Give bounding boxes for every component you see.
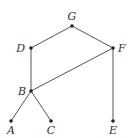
node-g: [70, 24, 74, 28]
node-d: [29, 46, 33, 50]
node-label-c: C: [47, 124, 56, 137]
nodes: [9, 24, 115, 123]
node-label-g: G: [68, 10, 77, 23]
node-label-e: E: [108, 124, 117, 137]
hasse-diagram: GDFBACE: [0, 0, 133, 138]
node-label-a: A: [6, 124, 15, 137]
edge-g-f: [72, 26, 113, 48]
edge-b-c: [31, 91, 51, 121]
node-b: [29, 89, 33, 93]
edges: [11, 26, 113, 121]
node-c: [49, 119, 53, 123]
node-e: [111, 119, 115, 123]
node-label-f: F: [117, 42, 126, 55]
node-label-b: B: [17, 85, 26, 98]
node-f: [111, 46, 115, 50]
edge-g-d: [31, 26, 72, 48]
edge-f-b: [31, 48, 113, 91]
node-a: [9, 119, 13, 123]
node-label-d: D: [15, 42, 25, 55]
